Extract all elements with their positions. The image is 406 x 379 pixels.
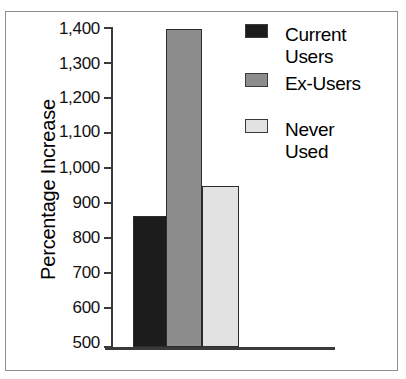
y-axis-tick-1000 [104, 167, 112, 169]
y-axis-tick-900 [104, 202, 112, 204]
y-tick-label-1000: 1,000 [38, 159, 100, 176]
y-axis-tick-labels: 1,400 1,300 1,200 1,100 1,000 900 800 70… [38, 0, 100, 379]
legend-swatch-never-used [245, 119, 268, 133]
y-tick-label-500: 500 [38, 334, 100, 351]
y-axis-tick-600 [104, 307, 112, 309]
bar-never-used [202, 186, 239, 347]
y-axis-tick-1400 [104, 27, 112, 29]
y-tick-label-700: 700 [38, 264, 100, 281]
legend-item-current-users: Current Users [245, 24, 346, 68]
y-tick-label-1400: 1,400 [38, 20, 100, 37]
y-axis-tick-1300 [104, 62, 112, 64]
legend-item-never-used: Never Used [245, 119, 334, 163]
legend-label-ex-users: Ex-Users [285, 73, 361, 95]
chart-screenshot: Percentage Increase 1,400 1,300 1,200 1,… [0, 0, 406, 379]
y-axis-tick-800 [104, 237, 112, 239]
y-tick-label-1100: 1,100 [38, 123, 100, 140]
y-tick-label-1200: 1,200 [38, 89, 100, 106]
legend-label-current-users: Current Users [285, 24, 346, 68]
bar-chart-plot: Percentage Increase 1,400 1,300 1,200 1,… [0, 0, 406, 379]
legend-item-ex-users: Ex-Users [245, 73, 361, 95]
bar-current-users [133, 216, 170, 347]
legend-swatch-ex-users [245, 73, 268, 87]
legend-label-never-used: Never Used [285, 119, 334, 163]
y-tick-label-900: 900 [38, 194, 100, 211]
y-tick-label-600: 600 [38, 299, 100, 316]
y-axis-tick-700 [104, 272, 112, 274]
bar-ex-users [166, 29, 202, 347]
y-tick-label-1300: 1,300 [38, 55, 100, 72]
y-tick-label-800: 800 [38, 229, 100, 246]
x-axis-line [105, 347, 335, 350]
y-axis-tick-1100 [104, 132, 112, 134]
legend-swatch-current-users [245, 24, 268, 38]
y-axis-tick-500 [104, 346, 112, 348]
y-axis-line [111, 27, 113, 349]
y-axis-tick-1200 [104, 97, 112, 99]
